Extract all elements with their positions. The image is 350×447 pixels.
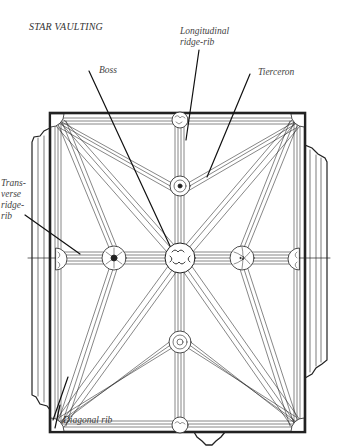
leader-lines: [25, 50, 250, 428]
bosses: [51, 112, 304, 433]
leader-transverse: [25, 215, 80, 254]
leader-longitudinal: [186, 50, 199, 140]
leader-tierceron: [207, 74, 250, 177]
vault-plan-drawing: [0, 0, 350, 447]
leader-boss: [89, 71, 170, 246]
center-boss: [165, 243, 195, 273]
